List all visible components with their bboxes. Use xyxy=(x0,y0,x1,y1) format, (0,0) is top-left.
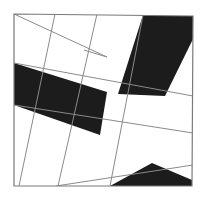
geometric-pattern-figure xyxy=(0,0,206,199)
figure-container xyxy=(0,0,206,199)
